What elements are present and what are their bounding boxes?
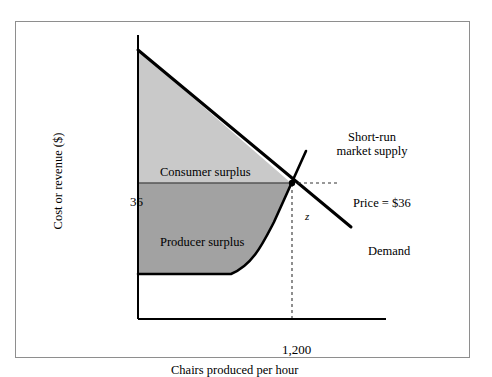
- producer-surplus-region: [138, 183, 291, 274]
- supply-curve-label-line2: market supply: [316, 144, 428, 158]
- consumer-surplus-label: Consumer surplus: [160, 165, 251, 179]
- supply-curve-label: Short-run market supply: [316, 130, 428, 158]
- y-axis-tick-36: 36: [130, 195, 143, 210]
- chart-plot-area: [16, 22, 469, 357]
- producer-surplus-label: Producer surplus: [160, 235, 244, 249]
- x-axis-tick-1200: 1,200: [282, 343, 311, 358]
- price-annotation-label: Price = $36: [353, 196, 411, 210]
- demand-curve-label: Demand: [368, 244, 410, 258]
- x-axis-label: Chairs produced per hour: [171, 363, 298, 377]
- figure-frame: Cost or revenue ($) 36 1,200 Chairs prod…: [15, 21, 470, 358]
- supply-curve-label-line1: Short-run: [316, 130, 428, 144]
- equilibrium-point-label: z: [305, 210, 309, 222]
- y-axis-label: Cost or revenue ($): [51, 106, 65, 256]
- equilibrium-point-marker: [289, 180, 295, 186]
